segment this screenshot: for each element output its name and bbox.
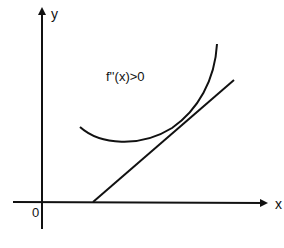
convex-curve	[80, 44, 217, 142]
x-axis-label: x	[275, 196, 282, 212]
x-axis	[13, 202, 266, 203]
origin-label: 0	[32, 205, 39, 220]
y-axis-label: y	[51, 6, 58, 22]
convexity-annotation: f''(x)>0	[106, 69, 145, 84]
convexity-diagram: y x 0 f''(x)>0	[0, 0, 284, 248]
